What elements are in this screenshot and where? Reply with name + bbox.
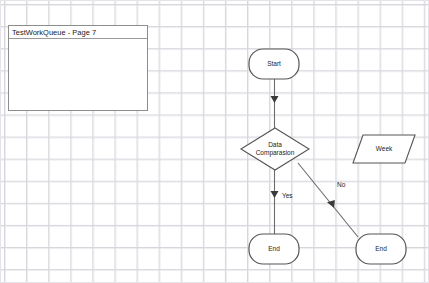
- node-end-yes-label: End: [249, 245, 299, 253]
- panel-body[interactable]: [9, 39, 147, 110]
- connector-end-no-to-decision: [298, 163, 358, 237]
- node-week-label: Week: [353, 145, 415, 153]
- node-decision-label-line1: Data: [245, 141, 305, 149]
- node-decision-label-line2: Comparasion: [245, 149, 305, 157]
- arrowhead-start-to-decision: [271, 96, 279, 103]
- node-start-label: Start: [249, 60, 299, 68]
- node-start[interactable]: [249, 49, 299, 79]
- arrowhead-yes: [271, 191, 279, 198]
- node-decision[interactable]: [241, 128, 309, 170]
- diagram-canvas[interactable]: TestWorkQueue - Page 7: [0, 0, 429, 283]
- node-end-no[interactable]: [356, 234, 406, 264]
- arrowhead-no: [327, 197, 338, 208]
- edge-label-yes: Yes: [282, 192, 293, 200]
- node-end-no-label: End: [356, 245, 406, 253]
- node-week[interactable]: [353, 135, 415, 163]
- page-title: TestWorkQueue - Page 7: [9, 26, 147, 39]
- page-properties-panel[interactable]: TestWorkQueue - Page 7: [8, 25, 148, 111]
- node-end-yes[interactable]: [249, 234, 299, 264]
- edge-label-no: No: [337, 181, 345, 189]
